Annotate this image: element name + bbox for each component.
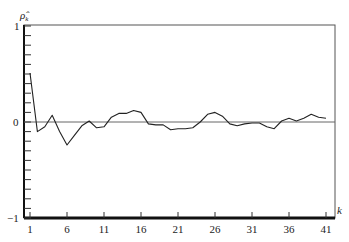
- x-tick-label: 31: [247, 223, 258, 235]
- x-tick-label: 16: [136, 223, 148, 235]
- acf-line: [30, 73, 326, 145]
- y-tick-label-bottom: −1: [7, 212, 19, 224]
- x-axis-title: k: [337, 204, 343, 216]
- y-ticks: [24, 26, 31, 218]
- y-tick-label-top: 1: [14, 20, 20, 32]
- x-tick-label: 6: [64, 223, 70, 235]
- x-tick-label: 26: [210, 223, 222, 235]
- y-tick-label-zero: 0: [13, 116, 19, 128]
- y-axis-title: ρ̂k: [19, 9, 30, 23]
- x-tick-label: 11: [99, 223, 110, 235]
- x-ticks: 1611162126313641: [27, 212, 331, 235]
- x-tick-label: 1: [27, 223, 33, 235]
- x-tick-label: 21: [173, 223, 184, 235]
- autocorrelation-chart: 1611162126313641 1 0 −1 ρ̂k k: [0, 0, 349, 242]
- x-tick-label: 36: [284, 223, 296, 235]
- x-tick-label: 41: [321, 223, 332, 235]
